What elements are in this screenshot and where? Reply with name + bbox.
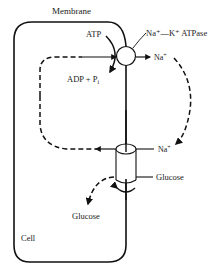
- adp-label: ADP + Pi: [67, 74, 99, 85]
- na-k-atpase-pump: [117, 47, 136, 66]
- na-external-dashed-loop: [174, 58, 191, 144]
- atp-label: ATP: [86, 29, 101, 39]
- cell-membrane: [14, 22, 126, 262]
- atp-to-adp-arrow: [106, 36, 115, 72]
- glucose-outside-label: Glucose: [156, 172, 184, 182]
- glucose-into-cell-arrow: [88, 177, 114, 204]
- cell-label: Cell: [21, 233, 36, 243]
- glucose-inside-label: Glucose: [72, 211, 100, 221]
- cell-transport-diagram: Membrane Na⁺—K⁺ ATPase ATP ADP + Pi Na+ …: [0, 0, 224, 272]
- pump-label: Na⁺—K⁺ ATPase: [146, 28, 207, 38]
- na-top-label: Na+: [154, 52, 167, 62]
- pump-pointer-line: [133, 33, 146, 48]
- na-left-dashed-path: [40, 96, 96, 149]
- membrane-label: Membrane: [52, 6, 91, 16]
- na-bottom-label: Na+: [158, 144, 171, 154]
